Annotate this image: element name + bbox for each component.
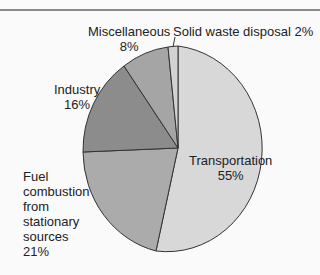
transportation-pct: 55% xyxy=(189,168,272,183)
fuel-line-4: stationary xyxy=(23,214,89,229)
fuel-line-3: from xyxy=(23,199,89,214)
transportation-name: Transportation xyxy=(189,153,272,168)
misc-pct: 8% xyxy=(88,39,170,54)
label-industry: Industry 16% xyxy=(54,82,100,112)
label-transportation: Transportation 55% xyxy=(189,153,272,183)
label-fuel-combustion: Fuel combustion from stationary sources … xyxy=(23,169,89,259)
fuel-line-2: combustion xyxy=(23,184,89,199)
label-miscellaneous: Miscellaneous 8% xyxy=(88,24,170,54)
misc-name: Miscellaneous xyxy=(88,24,170,39)
industry-name: Industry xyxy=(54,82,100,97)
industry-pct: 16% xyxy=(54,97,100,112)
label-solid-waste: Solid waste disposal 2% xyxy=(173,24,313,39)
fuel-line-5: sources xyxy=(23,229,89,244)
fuel-pct: 21% xyxy=(23,244,89,259)
fuel-line-1: Fuel xyxy=(23,169,89,184)
